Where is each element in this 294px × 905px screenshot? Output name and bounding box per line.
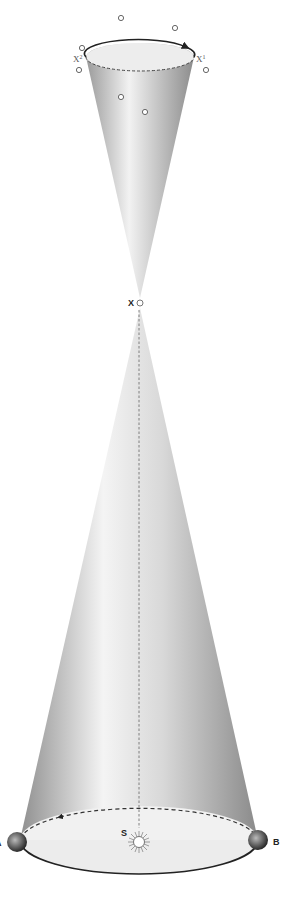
- label-x-apex: X: [128, 298, 134, 308]
- label-a: A: [0, 838, 2, 848]
- star: [118, 15, 123, 20]
- star: [142, 109, 147, 114]
- cone-diagram: X X2 X1 S A B: [0, 0, 294, 905]
- upper-cone: [84, 40, 194, 298]
- label-sun: S: [121, 828, 127, 838]
- star: [172, 25, 177, 30]
- planet-b: [248, 830, 268, 850]
- planet-a: [7, 832, 27, 852]
- star: [203, 67, 208, 72]
- star: [118, 94, 123, 99]
- label-b: B: [273, 837, 280, 847]
- apex-star: [137, 300, 143, 306]
- star: [76, 67, 81, 72]
- label-x1: X1: [196, 54, 206, 64]
- star: [79, 45, 84, 50]
- sun-icon: [128, 831, 150, 853]
- lower-cone: [20, 308, 258, 874]
- label-x2: X2: [73, 54, 83, 64]
